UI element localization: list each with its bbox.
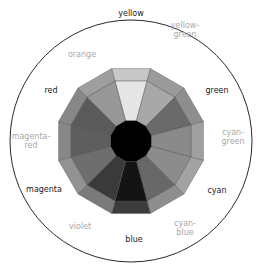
label-text-line2: green	[221, 137, 244, 146]
label-text-line2: blue	[174, 228, 196, 237]
segment-cyan-green-outer	[191, 122, 204, 161]
label-text: orange	[68, 50, 96, 59]
label-magenta: magenta	[26, 185, 62, 194]
label-orange: orange	[68, 50, 96, 59]
segment-blue-outer	[112, 201, 151, 214]
label-text-line2: green	[171, 30, 199, 39]
label-cyan: cyan	[207, 186, 226, 195]
label-text: blue	[125, 235, 142, 244]
label-text: cyan-	[174, 219, 196, 228]
label-blue: blue	[125, 235, 142, 244]
label-text: green	[205, 86, 228, 95]
label-text: violet	[69, 222, 91, 231]
label-green: green	[205, 86, 228, 95]
label-yellow-green: yellow-green	[171, 21, 199, 39]
label-text: magenta	[26, 185, 62, 194]
label-cyan-green: cyan-green	[221, 128, 244, 146]
label-yellow: yellow	[118, 9, 144, 18]
label-text: yellow-	[171, 21, 199, 30]
label-text: magenta-	[12, 132, 51, 141]
segment-magenta-red-outer	[59, 122, 72, 161]
label-cyan-blue: cyan-blue	[174, 219, 196, 237]
label-text-line2: red	[12, 141, 51, 150]
label-violet: violet	[69, 222, 91, 231]
label-text: yellow	[118, 9, 144, 18]
label-text: cyan-	[221, 128, 244, 137]
center-hub	[111, 121, 152, 162]
label-text: red	[44, 86, 57, 95]
segment-yellow-outer	[112, 69, 151, 82]
label-red: red	[44, 86, 57, 95]
label-text: cyan	[207, 186, 226, 195]
label-magenta-red: magenta-red	[12, 132, 51, 150]
